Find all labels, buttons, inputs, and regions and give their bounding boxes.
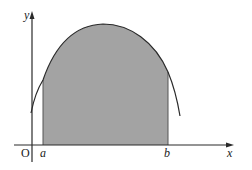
origin-label: O	[21, 146, 30, 160]
y-axis-label: y	[23, 8, 30, 22]
x-axis-label: x	[226, 146, 233, 160]
shaded-area	[43, 24, 168, 145]
upper-bound-label: b	[164, 146, 170, 160]
y-axis-arrow-icon	[30, 11, 35, 19]
lower-bound-label: a	[40, 146, 46, 160]
area-under-curve-diagram: y x O a b	[0, 0, 252, 170]
